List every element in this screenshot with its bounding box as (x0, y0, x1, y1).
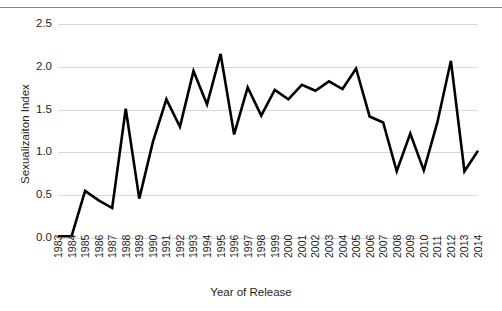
y-axis-tick-label: 0.5 (12, 189, 52, 201)
x-axis-tick-label: 2011 (430, 244, 444, 258)
y-axis-tick-label: 2.0 (12, 61, 52, 73)
x-axis-tick-label: 2013 (457, 244, 471, 258)
x-axis-tick-label: 2014 (471, 244, 485, 258)
x-axis-tick-label: 1993 (186, 244, 200, 258)
x-axis-tick-label: 1996 (227, 244, 241, 258)
x-axis-tick-label: 2010 (417, 244, 431, 258)
x-axis-tick-label: 1983 (51, 244, 65, 258)
chart-figure: Sexualizaiton Index 0.00.51.01.52.02.5 1… (0, 0, 502, 311)
x-axis-tick-label: 2001 (295, 244, 309, 258)
x-axis-tick-label: 1985 (78, 244, 92, 258)
y-axis-tick-label: 1.0 (12, 146, 52, 158)
x-axis-tick-label: 2003 (322, 244, 336, 258)
top-divider (0, 7, 502, 8)
x-axis-tick-label: 1988 (119, 244, 133, 258)
x-axis-tick-label: 1995 (214, 244, 228, 258)
y-axis-tick-label: 2.5 (12, 18, 52, 30)
y-axis-tick-labels: 0.00.51.01.52.02.5 (8, 0, 52, 311)
x-axis-tick-labels: 1983198419851986198719881989199019911992… (58, 244, 478, 284)
x-axis-tick-label: 1986 (92, 244, 106, 258)
x-axis-tick-label: 2008 (390, 244, 404, 258)
x-axis-title: Year of Release (0, 286, 502, 298)
y-axis-tick-label: 1.5 (12, 104, 52, 116)
x-axis-tick-label: 2002 (308, 244, 322, 258)
x-axis-tick-label: 1994 (200, 244, 214, 258)
x-axis-tick-label: 2000 (281, 244, 295, 258)
x-axis-tick-label: 1998 (254, 244, 268, 258)
x-axis-tick-label: 1989 (132, 244, 146, 258)
x-axis-tick-label: 1984 (65, 244, 79, 258)
plot-area (58, 24, 478, 238)
x-axis-tick-label: 1999 (268, 244, 282, 258)
x-axis-tick-label: 1987 (105, 244, 119, 258)
y-axis-tick-label: 0.0 (12, 232, 52, 244)
x-axis-tick-label: 2007 (376, 244, 390, 258)
x-axis-tick-label: 2006 (363, 244, 377, 258)
x-axis-tick-label: 1992 (173, 244, 187, 258)
cut-off-header-text (0, 0, 502, 1)
x-axis-tick-label: 1990 (146, 244, 160, 258)
data-series-line (58, 24, 478, 238)
x-axis-tick-label: 2005 (349, 244, 363, 258)
x-axis-tick-label: 2012 (444, 244, 458, 258)
x-axis-tick-label: 2009 (403, 244, 417, 258)
x-axis-tick-label: 1997 (241, 244, 255, 258)
x-axis-tick-label: 2004 (336, 244, 350, 258)
x-axis-tick-label: 1991 (159, 244, 173, 258)
